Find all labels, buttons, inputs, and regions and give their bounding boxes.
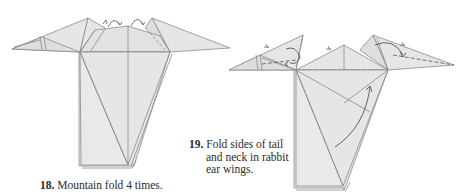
step-19-caption: 19. Fold sides of tail and neck in rabbi…: [189, 138, 289, 176]
step-number: 19.: [189, 138, 203, 150]
mountain-fold-arrows: [103, 19, 145, 27]
step-18-caption: 18. Mountain fold 4 times.: [40, 179, 163, 192]
step-text: Mountain fold 4 times.: [57, 179, 162, 191]
step-text-line-2: and neck in rabbit: [189, 151, 289, 163]
step-number: 18.: [40, 179, 54, 191]
step-text-line-1: Fold sides of tail: [206, 138, 283, 150]
step-text-line-3: ear wings.: [189, 163, 253, 175]
